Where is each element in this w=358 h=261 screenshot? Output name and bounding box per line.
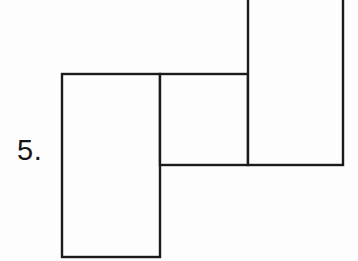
left-rectangle [62, 74, 160, 257]
right-rectangle [248, 0, 343, 165]
figure-canvas: 5. [0, 0, 358, 261]
composite-rectangles-figure [0, 0, 358, 261]
middle-rectangle [160, 74, 248, 165]
